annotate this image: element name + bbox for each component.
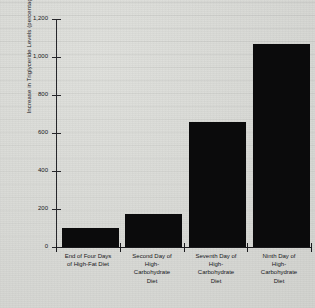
x-axis-label-line: Diet [120,277,184,285]
x-axis-label-line: of High-Fat Diet [56,260,120,268]
y-axis-tick-label: 400 [38,167,48,173]
x-axis-label-line: Carbohydrate [247,268,311,276]
y-axis-tick-label: 200 [38,205,48,211]
y-axis-tick-label: 600 [38,129,48,135]
bar [62,228,119,247]
x-axis-label-line: High- [120,260,184,268]
x-axis-label-line: Carbohydrate [120,268,184,276]
y-axis-tick-label: 0 [45,243,48,249]
x-axis-labels: End of Four Daysof High-Fat DietSecond D… [56,252,311,308]
plot-area: 02004006008001,0001,200 [56,20,311,248]
bar-series [56,20,311,248]
x-axis-label-line: Diet [184,277,248,285]
y-axis-tick-label: 1,200 [33,15,48,21]
bar-chart: Increase in Triglyceride Levels (percent… [0,0,315,308]
x-axis-label: Ninth Day ofHigh-CarbohydrateDiet [247,252,311,285]
x-axis-label: Second Day ofHigh-CarbohydrateDiet [120,252,184,285]
x-axis-label-line: Ninth Day of [247,252,311,260]
x-axis-label-line: Second Day of [120,252,184,260]
x-axis-label-line: High- [247,260,311,268]
bar [253,44,310,247]
x-axis-label-line: High- [184,260,248,268]
x-axis-label-line: Seventh Day of [184,252,248,260]
x-axis-label-line: Diet [247,277,311,285]
x-axis-label: Seventh Day ofHigh-CarbohydrateDiet [184,252,248,285]
x-axis-label: End of Four Daysof High-Fat Diet [56,252,120,268]
y-axis-tick-label: 800 [38,91,48,97]
bar [125,214,182,247]
bar [189,122,246,247]
y-axis-tick-label: 1,000 [33,53,48,59]
x-axis-label-line: Carbohydrate [184,268,248,276]
x-axis-tick [311,243,312,252]
y-axis-title: Increase in Triglyceride Levels (percent… [26,0,32,138]
x-axis-label-line: End of Four Days [56,252,120,260]
